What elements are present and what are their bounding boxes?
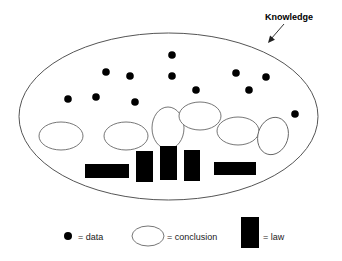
legend-law-rect-icon <box>241 217 259 248</box>
legend: = data= conclusion= law <box>64 217 285 248</box>
data-point-dot <box>168 72 176 80</box>
conclusion-ellipse <box>217 117 259 145</box>
knowledge-label: Knowledge <box>265 12 313 22</box>
diagram-canvas: Knowledge = data= conclusion= law <box>0 0 342 261</box>
legend-item-label: = conclusion <box>167 232 217 242</box>
data-point-dot <box>168 51 176 59</box>
conclusion-ellipse <box>39 122 83 150</box>
data-point-dot <box>232 69 240 77</box>
callout-arrow-line <box>271 24 284 39</box>
data-point-dot <box>64 95 72 103</box>
law-rectangle <box>160 146 177 180</box>
law-rectangle <box>214 162 256 175</box>
legend-data-dot-icon <box>64 232 72 240</box>
data-point-dot <box>131 98 139 106</box>
law-rectangle <box>184 150 200 181</box>
data-point-dot <box>192 86 200 94</box>
data-point-dot <box>291 110 299 118</box>
conclusion-ellipse <box>104 122 148 150</box>
data-point-dot <box>92 93 100 101</box>
law-rectangle <box>136 151 153 182</box>
legend-conclusion-ellipse-icon <box>132 226 164 246</box>
data-point-dot <box>102 68 110 76</box>
legend-item-label: = law <box>263 232 285 242</box>
callout-arrow-head-icon <box>268 36 275 43</box>
data-point-dot <box>262 73 270 81</box>
legend-item-label: = data <box>78 232 103 242</box>
conclusion-ellipse <box>179 102 221 130</box>
data-point-dot <box>126 72 134 80</box>
law-rectangle <box>85 164 129 178</box>
data-point-dot <box>245 86 253 94</box>
knowledge-callout <box>268 24 284 43</box>
knowledge-diagram: Knowledge = data= conclusion= law <box>0 0 342 261</box>
